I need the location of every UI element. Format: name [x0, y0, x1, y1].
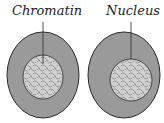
nucleus-label: Nucleus — [106, 3, 160, 18]
cell-diagram: Chromatin Nucleus — [0, 0, 164, 123]
left-cell — [7, 22, 79, 118]
chromatin-label: Chromatin — [12, 3, 82, 18]
cells-illustration — [0, 0, 164, 123]
right-cell — [88, 22, 160, 118]
